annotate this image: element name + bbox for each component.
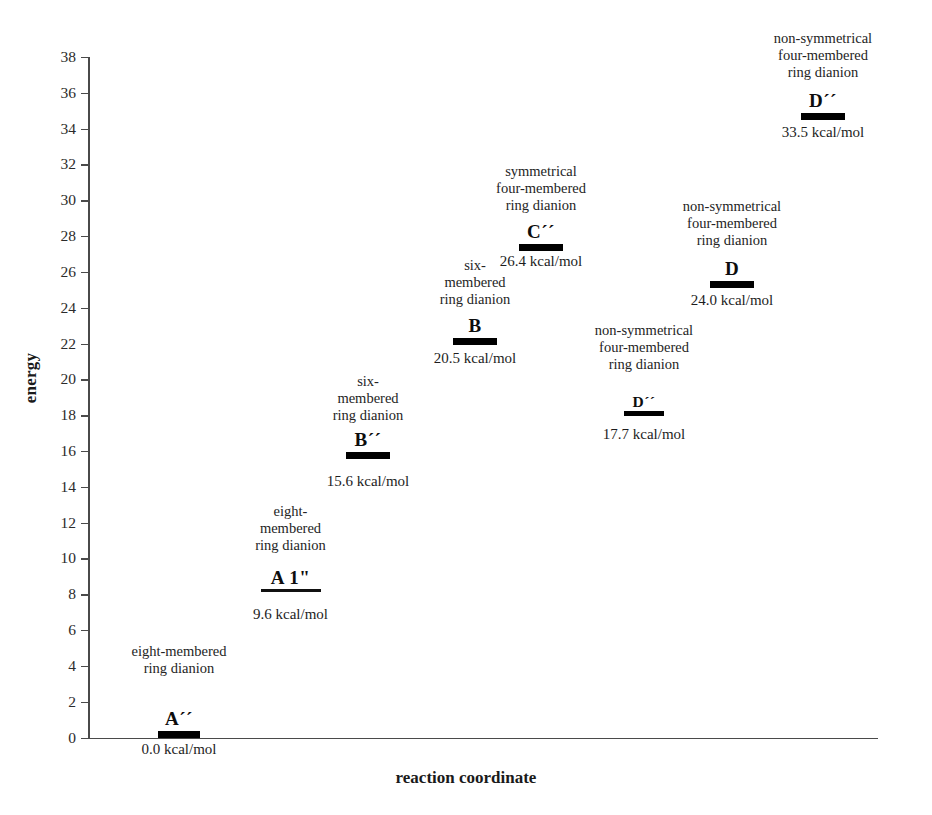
level-value: 9.6 kcal/mol xyxy=(208,606,373,623)
level-value: 15.6 kcal/mol xyxy=(293,473,443,490)
y-axis-tick-mark xyxy=(81,379,88,380)
y-axis-tick-label: 8 xyxy=(40,586,76,602)
y-axis-tick-mark xyxy=(81,93,88,94)
y-axis-tick-mark xyxy=(81,523,88,524)
energy-level-d: non-symmetrical four-membered ring diani… xyxy=(651,198,813,309)
level-value: 33.5 kcal/mol xyxy=(742,124,904,141)
energy-level-c-double-prime: symmetrical four-membered ring dianion C… xyxy=(466,163,616,270)
y-axis-line xyxy=(88,57,90,739)
energy-level-b-double-prime: six- membered ring dianion B´´ 15.6 kcal… xyxy=(293,373,443,490)
level-name: A 1" xyxy=(208,568,373,589)
y-axis-tick-label: 18 xyxy=(40,407,76,423)
y-axis-tick-label: 16 xyxy=(40,443,76,459)
y-axis-tick-label: 14 xyxy=(40,479,76,495)
y-axis-tick-mark xyxy=(81,666,88,667)
y-axis-tick-label: 32 xyxy=(40,156,76,172)
energy-level-a-double-prime: eight-membered ring dianion A´´ 0.0 kcal… xyxy=(104,643,254,758)
y-axis-tick-mark xyxy=(81,129,88,130)
level-name: A´´ xyxy=(104,709,254,730)
y-axis-tick-label: 22 xyxy=(40,336,76,352)
y-axis-tick-mark xyxy=(81,272,88,273)
level-value: 20.5 kcal/mol xyxy=(400,350,550,367)
level-description: eight-membered ring dianion xyxy=(104,643,254,677)
level-description: symmetrical four-membered ring dianion xyxy=(466,163,616,214)
y-axis-tick-mark xyxy=(81,702,88,703)
y-axis-tick-label: 28 xyxy=(40,228,76,244)
level-bar xyxy=(346,452,390,459)
y-axis-tick-mark xyxy=(81,344,88,345)
y-axis-tick-label: 0 xyxy=(40,730,76,746)
level-bar xyxy=(519,244,563,251)
y-axis-tick-mark xyxy=(81,451,88,452)
y-axis-tick-label: 26 xyxy=(40,264,76,280)
y-axis-tick-mark xyxy=(81,236,88,237)
y-axis-tick-label: 24 xyxy=(40,300,76,316)
y-axis-tick-label: 10 xyxy=(40,550,76,566)
y-axis-tick-label: 20 xyxy=(40,371,76,387)
level-description: non-symmetrical four-membered ring diani… xyxy=(563,322,725,373)
y-axis-tick-mark xyxy=(81,57,88,58)
y-axis-tick-label: 2 xyxy=(40,694,76,710)
y-axis-tick-label: 34 xyxy=(40,121,76,137)
y-axis-tick-label: 6 xyxy=(40,622,76,638)
y-axis-tick-mark xyxy=(81,164,88,165)
level-value: 0.0 kcal/mol xyxy=(104,741,254,758)
level-description: six- membered ring dianion xyxy=(293,373,443,424)
level-bar xyxy=(453,338,497,345)
y-axis-tick-mark xyxy=(81,487,88,488)
energy-level-b: six- membered ring dianion B 20.5 kcal/m… xyxy=(400,257,550,367)
y-axis-tick-label: 4 xyxy=(40,658,76,674)
level-bar xyxy=(261,589,321,592)
y-axis-tick-mark xyxy=(81,738,88,739)
y-axis-title: energy xyxy=(21,333,41,423)
level-name: D xyxy=(651,259,813,280)
level-description: non-symmetrical four-membered ring diani… xyxy=(742,30,904,81)
y-axis-tick-label: 36 xyxy=(40,85,76,101)
level-description: non-symmetrical four-membered ring diani… xyxy=(651,198,813,249)
level-bar xyxy=(624,411,664,416)
y-axis-tick-mark xyxy=(81,630,88,631)
y-axis-tick-label: 12 xyxy=(40,515,76,531)
y-axis-tick-mark xyxy=(81,594,88,595)
plot-area: 38363432302826242220181614121086420 ener… xyxy=(0,0,932,815)
y-axis-tick-mark xyxy=(81,415,88,416)
energy-level-d-double-prime-low: non-symmetrical four-membered ring diani… xyxy=(563,322,725,444)
x-axis-title: reaction coordinate xyxy=(0,768,932,788)
energy-level-d-double-prime-high: non-symmetrical four-membered ring diani… xyxy=(742,30,904,141)
level-bar xyxy=(710,281,754,288)
level-name: D´´ xyxy=(742,91,904,112)
energy-diagram-figure: 38363432302826242220181614121086420 ener… xyxy=(0,0,932,815)
level-name: B´´ xyxy=(293,430,443,451)
y-axis-tick-mark xyxy=(81,308,88,309)
level-value: 24.0 kcal/mol xyxy=(651,292,813,309)
level-name: B xyxy=(400,316,550,337)
energy-level-a-one-prime: eight- membered ring dianion A 1" 9.6 kc… xyxy=(208,503,373,623)
y-axis-tick-mark xyxy=(81,200,88,201)
level-value: 17.7 kcal/mol xyxy=(563,426,725,443)
level-name: C´´ xyxy=(466,222,616,243)
level-description: eight- membered ring dianion xyxy=(208,503,373,554)
y-axis-tick-mark xyxy=(81,558,88,559)
y-axis-tick-label: 30 xyxy=(40,192,76,208)
level-value: 26.4 kcal/mol xyxy=(466,253,616,270)
y-axis-tick-label: 38 xyxy=(40,49,76,65)
page-caption-fragment xyxy=(20,800,920,812)
level-name: D´´ xyxy=(563,393,725,410)
level-bar xyxy=(158,731,200,738)
level-bar xyxy=(801,113,845,120)
